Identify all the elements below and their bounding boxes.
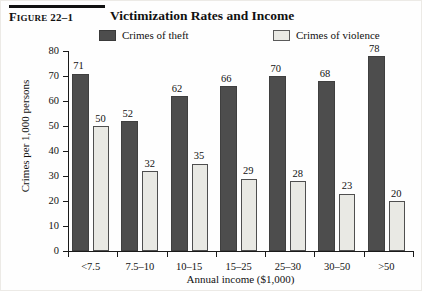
bar-group: 7820 bbox=[364, 51, 413, 251]
y-axis-label: Crimes per 1,000 persons bbox=[19, 36, 31, 236]
chart-legend: Crimes of theft Crimes of violence bbox=[1, 28, 422, 42]
bar-value-label: 71 bbox=[66, 61, 91, 72]
bar-value-label: 28 bbox=[285, 169, 310, 180]
x-axis-label: Annual income ($1,000) bbox=[68, 273, 413, 285]
x-axis-tick bbox=[314, 251, 315, 257]
figure-number-value: 22–1 bbox=[50, 11, 73, 23]
bar-value-label: 70 bbox=[263, 64, 288, 75]
y-axis-tick-label: 50 bbox=[37, 121, 59, 132]
bar-theft bbox=[220, 86, 237, 251]
bar-group: 5232 bbox=[117, 51, 166, 251]
x-axis-tick bbox=[216, 251, 217, 257]
bar-theft bbox=[269, 76, 286, 251]
bar-theft bbox=[318, 81, 335, 251]
figure-number-word: Figure bbox=[9, 10, 47, 24]
x-axis-tick bbox=[265, 251, 266, 257]
bar-value-label: 52 bbox=[115, 109, 140, 120]
bar-violence bbox=[93, 126, 109, 251]
y-axis-tick-label: 80 bbox=[37, 46, 59, 57]
bar-group: 6235 bbox=[167, 51, 216, 251]
bar-value-label: 23 bbox=[334, 181, 359, 192]
bar-value-label: 50 bbox=[88, 114, 113, 125]
bar-violence bbox=[290, 181, 306, 251]
bar-theft bbox=[368, 56, 385, 251]
y-axis-tick-label: 20 bbox=[37, 196, 59, 207]
x-axis-tick bbox=[364, 251, 365, 257]
bar-violence bbox=[241, 179, 257, 252]
x-axis-tick bbox=[167, 251, 168, 257]
x-axis-tick bbox=[117, 251, 118, 257]
bar-group: 7150 bbox=[68, 51, 117, 251]
y-axis-tick-label: 60 bbox=[37, 96, 59, 107]
bar-group: 6629 bbox=[216, 51, 265, 251]
legend-item-violence: Crimes of violence bbox=[273, 28, 380, 42]
x-axis-category-label: >50 bbox=[356, 261, 416, 272]
legend-swatch-violence bbox=[273, 30, 290, 41]
bar-value-label: 32 bbox=[137, 159, 162, 170]
bar-value-label: 62 bbox=[165, 84, 190, 95]
bar-theft bbox=[72, 74, 89, 252]
legend-item-theft: Crimes of theft bbox=[99, 28, 189, 42]
y-axis-tick-label: 30 bbox=[37, 171, 59, 182]
x-axis-tick bbox=[413, 251, 414, 257]
header-rule bbox=[9, 5, 105, 8]
bar-violence bbox=[339, 194, 355, 252]
bar-violence bbox=[142, 171, 158, 251]
figure-number: Figure 22–1 bbox=[9, 10, 73, 25]
bar-value-label: 68 bbox=[312, 69, 337, 80]
legend-swatch-theft bbox=[99, 30, 116, 41]
bar-group: 6823 bbox=[314, 51, 363, 251]
bar-violence bbox=[192, 164, 208, 252]
chart-area: Crimes per 1,000 persons 010203040506070… bbox=[1, 45, 422, 291]
y-axis-tick-label: 10 bbox=[37, 221, 59, 232]
legend-label-violence: Crimes of violence bbox=[296, 29, 380, 41]
figure-header: Figure 22–1 Victimization Rates and Inco… bbox=[9, 5, 415, 25]
x-axis-tick bbox=[68, 251, 69, 257]
bar-value-label: 20 bbox=[384, 189, 409, 200]
bar-violence bbox=[389, 201, 405, 251]
figure-container: Figure 22–1 Victimization Rates and Inco… bbox=[0, 0, 422, 291]
plot-region: 010203040506070807150<7.552327.5–1062351… bbox=[68, 51, 413, 251]
y-axis-tick-label: 40 bbox=[37, 146, 59, 157]
legend-label-theft: Crimes of theft bbox=[122, 29, 189, 41]
figure-title: Victimization Rates and Income bbox=[110, 8, 294, 24]
bar-group: 7028 bbox=[265, 51, 314, 251]
bar-value-label: 29 bbox=[236, 166, 261, 177]
x-axis-line bbox=[68, 251, 413, 252]
bar-value-label: 35 bbox=[187, 151, 212, 162]
bar-theft bbox=[121, 121, 138, 251]
bar-value-label: 78 bbox=[362, 44, 387, 55]
bar-theft bbox=[171, 96, 188, 251]
bar-value-label: 66 bbox=[214, 74, 239, 85]
y-axis-tick-label: 70 bbox=[37, 71, 59, 82]
y-axis-tick-label: 0 bbox=[37, 246, 59, 257]
